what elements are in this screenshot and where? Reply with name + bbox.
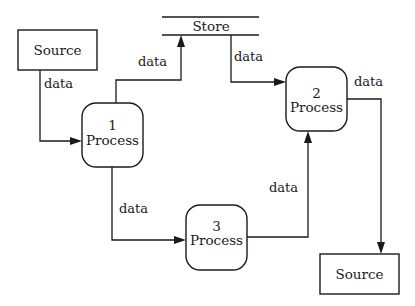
process-3[interactable]: 3 Process [186, 205, 247, 270]
flow-label: data [354, 74, 383, 89]
process-label: Process [290, 99, 343, 115]
flow-label: data [269, 180, 298, 195]
data-flow-diagram: data data data data data data Source [0, 0, 415, 306]
process-label: Process [190, 232, 243, 248]
flow-label: data [119, 201, 148, 216]
entity-label: Source [33, 42, 81, 58]
flow-process1-to-process3: data [112, 167, 186, 244]
store-label: Store [192, 18, 229, 34]
process-2[interactable]: 2 Process [286, 67, 347, 131]
flow-source-to-process1: data [40, 70, 82, 145]
arrowhead-icon [174, 236, 186, 244]
process-number: 1 [108, 117, 117, 133]
flow-label: data [234, 49, 263, 64]
arrowhead-icon [70, 137, 82, 145]
flow-process1-to-store: data [116, 35, 185, 103]
flow-label: data [44, 76, 73, 91]
flow-label: data [138, 54, 167, 69]
process-label: Process [86, 132, 139, 148]
source-entity-output[interactable]: Source [320, 254, 399, 294]
process-1[interactable]: 1 Process [82, 103, 143, 167]
source-entity-input[interactable]: Source [18, 30, 97, 70]
data-store[interactable]: Store [162, 17, 259, 35]
arrowhead-icon [304, 131, 312, 143]
flow-process3-to-process2: data [247, 131, 312, 237]
flow-store-to-process2: data [231, 35, 286, 86]
arrowhead-icon [177, 35, 185, 47]
flow-process2-to-source-out: data [347, 74, 385, 254]
arrowhead-icon [274, 78, 286, 86]
entity-label: Source [335, 266, 383, 282]
arrowhead-icon [377, 242, 385, 254]
